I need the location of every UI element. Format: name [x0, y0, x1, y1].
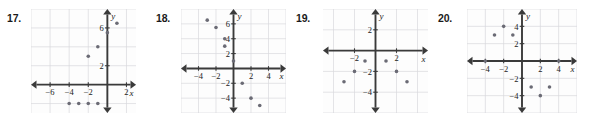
data-point — [96, 102, 100, 106]
data-point — [214, 26, 218, 30]
x-tick-label: −2 — [350, 53, 359, 63]
data-point — [258, 104, 262, 108]
y-tick-label: 2 — [514, 39, 518, 49]
data-point — [342, 80, 346, 84]
problem-18: 18. −4−224−4−2246xy — [150, 0, 290, 125]
data-point — [240, 81, 244, 85]
data-point — [363, 59, 367, 63]
data-point — [77, 102, 81, 106]
data-point — [223, 37, 227, 41]
x-tick-label: −2 — [84, 87, 93, 97]
y-tick-label: −2 — [363, 67, 372, 77]
y-tick-label: −2 — [509, 74, 518, 84]
x-tick-label: 2 — [538, 64, 542, 74]
y-tick-label: 2 — [368, 25, 372, 35]
problem-number-20: 20. — [438, 12, 452, 24]
y-tick-label: −2 — [221, 78, 230, 88]
x-tick-label: −4 — [65, 87, 75, 97]
x-tick-label: 4 — [557, 64, 562, 74]
data-point — [86, 102, 90, 106]
x-axis-label: x — [421, 54, 426, 64]
data-point — [395, 70, 399, 74]
x-tick-label: −4 — [481, 64, 491, 74]
x-tick-label: −6 — [46, 87, 55, 97]
scatter-plot-19: −22−4−22xy — [323, 9, 428, 113]
scatter-plot-17: −6−4−2226xy — [31, 9, 136, 113]
x-axis-label: x — [279, 71, 284, 81]
y-axis-label: y — [237, 11, 242, 21]
x-axis-label: x — [570, 64, 575, 74]
data-point — [223, 44, 227, 48]
data-point — [557, 59, 561, 63]
data-point — [96, 45, 100, 49]
data-point — [249, 96, 253, 100]
plot-background — [31, 9, 136, 113]
y-axis-label: y — [110, 11, 115, 21]
data-point — [502, 25, 506, 29]
plot-canvas-19: −22−4−22xy — [323, 9, 428, 113]
data-point — [384, 59, 388, 63]
y-tick-label: 2 — [100, 61, 104, 71]
problem-number-18: 18. — [156, 12, 170, 24]
data-point — [205, 18, 209, 22]
scatter-plot-20: −4−224−4−224xy — [467, 9, 577, 113]
y-tick-label: −4 — [509, 91, 519, 101]
data-point — [539, 94, 543, 98]
y-tick-label: 2 — [226, 49, 230, 59]
worksheet-problem-strip: 17. −6−4−2226xy 18. −4−224−4−2246xy 19. … — [0, 0, 589, 125]
x-tick-label: 2 — [394, 53, 398, 63]
y-tick-label: −4 — [363, 87, 373, 97]
problem-19: 19. −22−4−22xy — [290, 0, 430, 125]
data-point — [493, 33, 497, 37]
x-tick-label: 2 — [249, 71, 253, 81]
y-tick-label: −4 — [221, 93, 231, 103]
data-point — [106, 31, 110, 35]
plot-canvas-18: −4−224−4−2246xy — [181, 9, 286, 113]
data-point — [353, 70, 357, 74]
y-axis-label: y — [525, 11, 530, 21]
data-point — [86, 54, 90, 58]
problem-number-19: 19. — [296, 12, 310, 24]
x-tick-label: 2 — [124, 87, 128, 97]
y-tick-label: 6 — [100, 23, 104, 33]
y-axis-label: y — [379, 11, 384, 21]
data-point — [405, 80, 409, 84]
x-axis-label: x — [129, 88, 134, 98]
data-point — [511, 33, 515, 37]
x-tick-label: −2 — [211, 71, 220, 81]
plot-canvas-17: −6−4−2226xy — [31, 9, 136, 113]
data-point — [115, 21, 119, 25]
data-point — [548, 85, 552, 89]
problem-number-17: 17. — [7, 12, 21, 24]
scatter-plot-18: −4−224−4−2246xy — [181, 9, 286, 113]
data-point — [529, 85, 533, 89]
x-tick-label: −2 — [499, 64, 508, 74]
plot-canvas-20: −4−224−4−224xy — [467, 9, 577, 113]
data-point — [484, 59, 488, 63]
x-tick-label: −4 — [194, 71, 204, 81]
data-point — [232, 59, 236, 63]
problem-20: 20. −4−224−4−224xy — [430, 0, 589, 125]
problem-17: 17. −6−4−2226xy — [0, 0, 150, 125]
data-point — [67, 102, 71, 106]
y-tick-label: 6 — [226, 19, 230, 29]
